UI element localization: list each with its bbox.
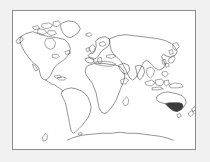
region-indonesia-borneo [155,79,164,86]
region-alaska [16,37,23,44]
region-japan [168,55,175,63]
region-tasmania [177,114,181,118]
region-iceland [86,33,92,37]
region-madagascar [123,97,129,106]
region-central-america [46,80,63,91]
region-asia[interactable] [110,35,177,80]
region-sakhalin [169,49,173,54]
region-new-zealand-north [192,107,195,112]
region-great-lakes [53,54,60,58]
region-ireland [86,47,90,51]
region-antarctica[interactable] [67,132,173,140]
region-india [136,65,145,80]
page-root [0,0,210,162]
region-north-america[interactable] [20,32,70,80]
region-indonesia-java [152,87,163,90]
region-arctic-islands-4 [48,31,57,36]
region-japan-south [165,63,169,67]
region-indonesia-sulawesi [164,80,169,86]
region-baltic [100,42,106,47]
region-greenland[interactable] [60,21,80,38]
region-south-america[interactable] [61,88,91,133]
region-arctic-islands-2 [54,21,61,27]
region-british-isles [89,45,95,53]
world-map-svg[interactable] [13,11,195,149]
region-africa[interactable] [85,63,125,113]
region-new-guinea [169,83,183,88]
region-arctic-islands [42,23,53,29]
region-iberia [85,57,94,63]
region-horn-of-africa [121,78,129,84]
region-hudson-bay [45,39,56,50]
world-map-frame[interactable] [12,10,196,150]
region-arctic-islands-5 [33,26,40,30]
region-europe[interactable] [88,37,110,60]
region-falkland-islands [78,132,82,135]
region-antarctic-peninsula [43,133,48,141]
region-philippines [162,71,168,77]
region-indonesia-sumatra [146,80,156,86]
region-indochina [147,67,155,78]
